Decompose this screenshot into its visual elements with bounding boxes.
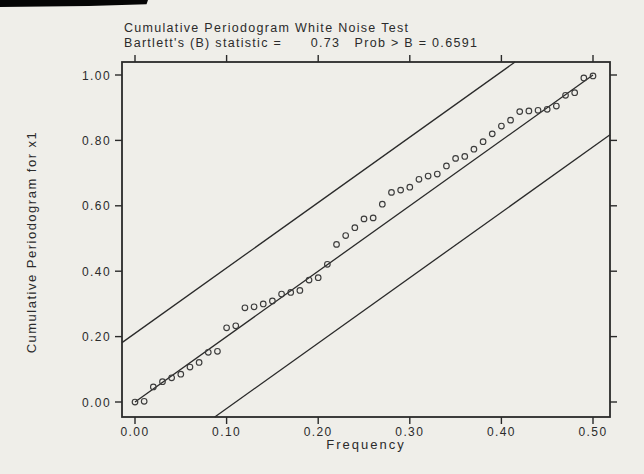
data-point — [279, 291, 285, 297]
data-point — [270, 298, 276, 304]
data-point — [297, 288, 303, 294]
data-point — [187, 364, 193, 370]
data-point — [425, 173, 431, 179]
data-point — [141, 399, 147, 405]
x-tick-label: 0.10 — [212, 425, 241, 439]
data-point — [389, 190, 395, 196]
data-point — [343, 233, 349, 239]
data-point — [489, 131, 495, 137]
data-point — [526, 108, 532, 114]
data-point — [444, 163, 450, 169]
data-point — [416, 177, 422, 183]
x-tick-label: 0.30 — [395, 425, 424, 439]
data-point — [517, 109, 523, 115]
x-tick-label: 0.40 — [487, 425, 516, 439]
data-point — [572, 90, 578, 96]
cumulative-periodogram-figure: Cumulative Periodogram White Noise Test … — [0, 0, 644, 474]
data-point — [480, 139, 486, 145]
data-point — [242, 305, 248, 311]
data-point — [233, 323, 239, 329]
plot-area: 0.000.100.200.300.400.500.000.200.400.60… — [0, 0, 644, 474]
y-tick-label: 0.40 — [82, 265, 111, 279]
data-point — [407, 184, 413, 190]
y-tick-label: 0.20 — [82, 330, 111, 344]
y-tick-label: 0.60 — [82, 199, 111, 213]
y-tick-label: 1.00 — [82, 69, 111, 83]
data-point — [361, 216, 367, 222]
data-point — [434, 171, 440, 177]
data-point — [224, 325, 230, 331]
y-tick-label: 0.00 — [82, 396, 111, 410]
data-point — [370, 215, 376, 221]
lower-confidence-band — [215, 135, 610, 417]
upper-confidence-band — [122, 62, 515, 343]
x-tick-label: 0.50 — [579, 425, 608, 439]
data-point — [260, 301, 266, 307]
data-point — [508, 117, 514, 123]
y-tick-label: 0.80 — [82, 134, 111, 148]
data-point — [453, 156, 459, 162]
data-point — [499, 123, 505, 129]
data-point — [581, 75, 587, 81]
data-point — [251, 304, 257, 310]
data-point — [178, 371, 184, 377]
x-tick-label: 0.20 — [304, 425, 333, 439]
data-point — [315, 275, 321, 281]
diagonal-reference-line — [135, 75, 593, 402]
data-point — [471, 146, 477, 152]
data-point — [215, 349, 221, 355]
x-tick-label: 0.00 — [121, 425, 150, 439]
data-point — [462, 154, 468, 160]
data-point — [352, 225, 358, 231]
data-point — [196, 360, 202, 366]
data-point — [535, 108, 541, 114]
data-point — [554, 103, 560, 109]
data-point — [334, 242, 340, 248]
data-point — [380, 201, 386, 207]
data-point — [398, 187, 404, 193]
